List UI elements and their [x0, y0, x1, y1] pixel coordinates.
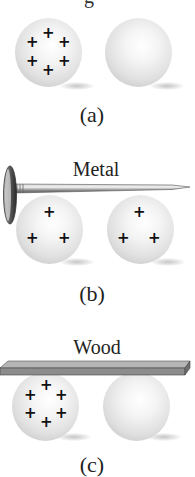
sphere-shadow [60, 82, 94, 90]
panel-caption-a: (a) [62, 104, 122, 126]
charged-sphere-left: + + + + + + [15, 18, 82, 87]
plus-charge-icon: + [148, 231, 160, 246]
plus-charge-icon: + [24, 406, 36, 421]
wood-plank-icon [0, 358, 195, 380]
plus-charge-icon: + [55, 388, 67, 403]
neutral-sphere-right [103, 372, 170, 441]
panel-caption-c: (c) [62, 454, 122, 476]
plus-charge-icon: + [40, 378, 52, 393]
plus-charge-icon: + [58, 231, 70, 246]
cut-off-heading-text: g [84, 0, 94, 6]
plus-charge-icon: + [58, 35, 70, 50]
plus-charge-icon: + [42, 26, 54, 41]
material-label-wood: Wood [57, 337, 137, 357]
plus-charge-icon: + [24, 388, 36, 403]
plus-charge-icon: + [26, 54, 38, 69]
metal-nail-icon [0, 160, 195, 230]
plus-charge-icon: + [55, 406, 67, 421]
plus-charge-icon: + [42, 63, 54, 78]
plus-charge-icon: + [26, 35, 38, 50]
plus-charge-icon: + [40, 415, 52, 430]
plus-charge-icon: + [117, 231, 129, 246]
panel-caption-b: (b) [62, 283, 122, 305]
plus-charge-icon: + [26, 231, 38, 246]
neutral-sphere-right [105, 18, 172, 87]
sphere-shadow [150, 82, 184, 90]
charged-sphere-left: + + + + + + [12, 372, 79, 441]
plus-charge-icon: + [58, 54, 70, 69]
